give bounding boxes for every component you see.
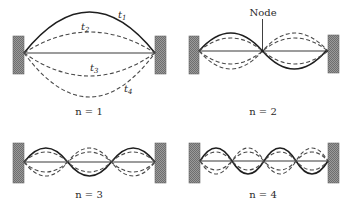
left-wall — [189, 36, 199, 74]
right-wall — [155, 36, 166, 74]
left-wall — [189, 143, 200, 183]
panel-n2: Node n = 2 — [189, 7, 339, 117]
label-t4: t4 — [124, 83, 133, 96]
right-wall — [155, 143, 166, 183]
node-point — [261, 50, 264, 53]
right-wall — [328, 143, 339, 183]
caption-n3: n = 3 — [75, 189, 103, 200]
left-wall — [13, 143, 24, 183]
wave-t2-curve — [24, 32, 155, 53]
wave-t1-curve — [24, 12, 155, 53]
node-label: Node — [249, 7, 276, 18]
right-wall — [328, 35, 339, 73]
standing-wave-diagram: t1 t2 t3 t4 n = 1 Node n = 2 — [0, 0, 347, 203]
panel-n4: n = 4 — [189, 143, 339, 200]
left-wall — [13, 36, 24, 74]
wave-t4-curve — [24, 53, 155, 97]
caption-n2: n = 2 — [249, 106, 277, 117]
caption-n1: n = 1 — [75, 106, 103, 117]
panel-n1: t1 t2 t3 t4 n = 1 — [13, 9, 166, 117]
panel-n3: n = 3 — [13, 143, 166, 200]
label-t2: t2 — [81, 21, 90, 34]
caption-n4: n = 4 — [249, 189, 277, 200]
label-t3: t3 — [90, 62, 99, 75]
